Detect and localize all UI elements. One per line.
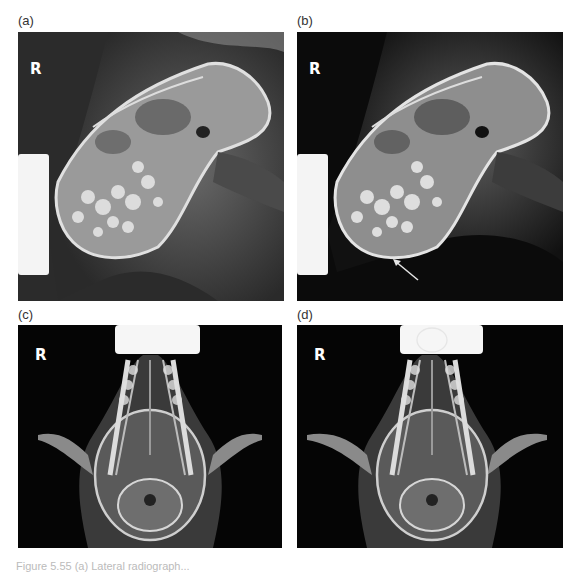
side-marker-r: R — [35, 346, 47, 364]
side-marker-r: R — [314, 346, 326, 364]
radiograph-panel-d: R — [297, 325, 563, 548]
side-marker-r: R — [30, 60, 42, 78]
panel-label-d: (d) — [297, 307, 313, 322]
positioning-block — [115, 325, 200, 354]
panel-label-c: (c) — [18, 307, 33, 322]
radiograph-panel-a: R — [18, 32, 284, 301]
panel-label-a: (a) — [18, 13, 34, 28]
ventrodorsal-skull-image — [297, 325, 563, 548]
lateral-skull-image — [297, 32, 563, 301]
figure-caption: Figure 5.55 (a) Lateral radiograph... — [16, 560, 190, 572]
lateral-skull-image — [18, 32, 284, 301]
radiograph-panel-b: R — [297, 32, 563, 301]
side-marker-r: R — [309, 60, 321, 78]
positioning-block — [18, 154, 49, 275]
radiograph-panel-c: R — [18, 325, 282, 548]
positioning-block — [297, 154, 328, 275]
panel-label-b: (b) — [297, 13, 313, 28]
ventrodorsal-skull-image — [18, 325, 282, 548]
